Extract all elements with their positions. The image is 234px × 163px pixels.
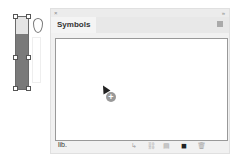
panel-titlebar[interactable]: × » bbox=[51, 9, 229, 17]
panel-tabbar: Symbols bbox=[51, 17, 229, 33]
artboard-canvas[interactable] bbox=[0, 0, 50, 163]
teardrop-shape[interactable] bbox=[33, 18, 43, 33]
collapse-icon[interactable]: » bbox=[222, 9, 225, 17]
symbol-options-icon[interactable]: ▤ bbox=[163, 142, 170, 150]
selection-handle-tl[interactable] bbox=[13, 14, 18, 19]
selection-handle-bl[interactable] bbox=[13, 86, 18, 91]
place-symbol-instance-icon[interactable]: ↳ bbox=[131, 142, 137, 150]
drag-add-icon: + bbox=[106, 92, 116, 102]
break-link-icon[interactable]: ⛓ bbox=[147, 142, 156, 150]
rectangle-highlight bbox=[16, 17, 28, 34]
symbols-panel: × » Symbols + lib. ↳ ⛓ ▤ ◼ 🗑 bbox=[50, 8, 230, 154]
selected-rectangle[interactable] bbox=[15, 16, 29, 90]
symbol-libraries-menu-button[interactable]: lib. bbox=[58, 141, 67, 148]
tab-symbols[interactable]: Symbols bbox=[51, 17, 96, 33]
faint-rectangle[interactable] bbox=[32, 37, 41, 83]
close-icon[interactable]: × bbox=[54, 9, 58, 17]
selection-handle-tr[interactable] bbox=[26, 14, 31, 19]
new-symbol-icon[interactable]: ◼ bbox=[181, 142, 187, 150]
symbols-list[interactable]: + bbox=[55, 38, 228, 141]
panel-toolbar: lib. ↳ ⛓ ▤ ◼ 🗑 bbox=[51, 139, 229, 153]
selection-handle-br[interactable] bbox=[26, 86, 31, 91]
selection-handle-mr[interactable] bbox=[26, 55, 31, 60]
selection-handle-ml[interactable] bbox=[13, 55, 18, 60]
panel-menu-icon[interactable] bbox=[217, 21, 223, 27]
delete-symbol-icon[interactable]: 🗑 bbox=[197, 142, 206, 150]
